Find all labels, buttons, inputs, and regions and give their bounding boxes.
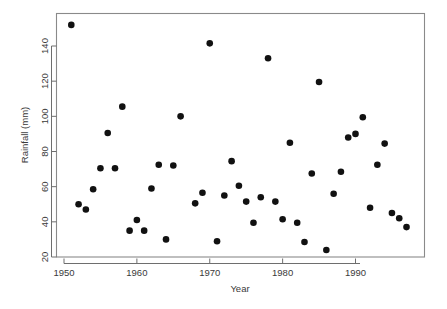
data-point: [403, 224, 410, 231]
data-point: [199, 190, 206, 197]
data-point: [381, 140, 388, 147]
data-point: [68, 22, 75, 29]
data-point: [396, 215, 403, 222]
data-point: [287, 139, 294, 146]
y-tick-label: 140: [39, 38, 50, 54]
data-point: [367, 204, 374, 211]
data-point: [228, 158, 235, 165]
x-tick-label: 1990: [345, 267, 366, 278]
data-point: [352, 131, 359, 138]
data-point: [155, 161, 162, 168]
data-point: [119, 103, 126, 110]
data-point: [90, 186, 97, 193]
data-point: [163, 236, 170, 243]
data-point: [177, 113, 184, 120]
y-tick-label: 60: [39, 181, 50, 192]
y-tick-label: 100: [39, 108, 50, 124]
data-point: [192, 200, 199, 207]
x-tick-label: 1980: [272, 267, 293, 278]
data-point: [316, 79, 323, 86]
y-tick-label: 40: [39, 217, 50, 228]
data-point: [308, 170, 315, 177]
data-point: [250, 219, 257, 226]
data-point: [323, 247, 330, 254]
data-point: [301, 239, 308, 246]
figure-background: [0, 0, 447, 309]
y-axis-title: Rainfall (mm): [19, 107, 30, 163]
data-point: [97, 165, 104, 172]
data-point: [206, 40, 213, 47]
data-point: [294, 219, 301, 226]
data-point: [214, 238, 221, 245]
data-point: [170, 162, 177, 169]
data-point: [104, 130, 111, 137]
data-point: [83, 206, 90, 213]
data-point: [257, 194, 264, 201]
x-tick-label: 1950: [53, 267, 74, 278]
data-point: [236, 182, 243, 189]
data-point: [75, 201, 82, 208]
data-point: [141, 227, 148, 234]
data-point: [243, 198, 250, 205]
plot-canvas: 20406080100120140 19501960197019801990 R…: [0, 0, 447, 309]
y-tick-label: 120: [39, 73, 50, 89]
x-axis-title: Year: [230, 283, 249, 294]
data-point: [134, 217, 141, 224]
data-point: [389, 210, 396, 217]
data-point: [272, 198, 279, 205]
data-point: [330, 190, 337, 197]
data-point: [112, 165, 119, 172]
data-point: [126, 227, 133, 234]
data-point: [148, 185, 155, 192]
data-point: [374, 161, 381, 168]
y-tick-label: 20: [39, 252, 50, 263]
data-point: [221, 192, 228, 199]
data-point: [338, 168, 345, 175]
data-point: [359, 114, 366, 121]
data-point: [265, 55, 272, 62]
x-tick-label: 1960: [126, 267, 147, 278]
scatter-plot-figure: 20406080100120140 19501960197019801990 R…: [0, 0, 447, 309]
y-tick-label: 80: [39, 146, 50, 157]
data-point: [279, 216, 286, 223]
data-point: [345, 134, 352, 141]
x-tick-label: 1970: [199, 267, 220, 278]
